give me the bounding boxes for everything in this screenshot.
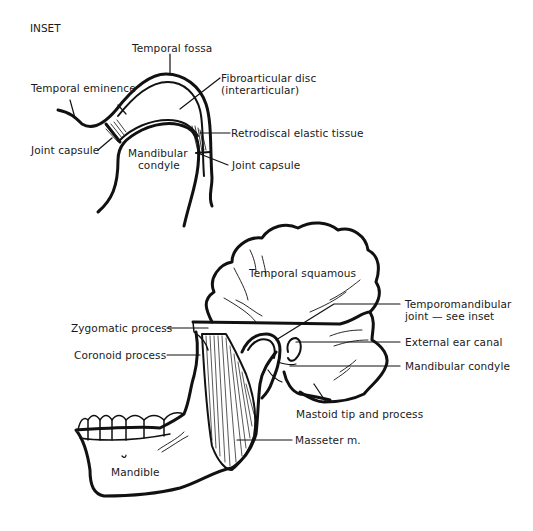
label-zygomatic-process: Zygomatic process [71,322,172,334]
label-joint-capsule-left: Joint capsule [31,144,99,156]
inset-title: INSET [30,22,61,34]
inset-illustration [58,54,230,226]
label-retrodiscal-elastic-tissue: Retrodiscal elastic tissue [231,127,364,139]
label-mastoid-tip-and-process: Mastoid tip and process [296,408,423,420]
label-temporomandibular-joint-line1: Temporomandibular [405,298,512,310]
label-mandible: Mandible [111,466,160,478]
label-mandibular-condyle-inset-line2: condyle [138,159,180,171]
label-fibroarticular-disc-line1: Fibroarticular disc [221,72,316,84]
label-external-ear-canal: External ear canal [405,336,502,348]
label-mandibular-condyle: Mandibular condyle [405,360,510,372]
label-coronoid-process: Coronoid process [74,349,166,361]
label-masseter: Masseter m. [295,434,361,446]
label-temporal-squamous: Temporal squamous [249,267,356,279]
label-temporal-fossa: Temporal fossa [132,42,212,54]
label-fibroarticular-disc-line2: (interarticular) [221,84,299,96]
label-joint-capsule-right: Joint capsule [232,159,300,171]
label-temporal-eminence: Temporal eminence [31,82,136,94]
label-mandibular-condyle-inset-line1: Mandibular [128,147,188,159]
label-temporomandibular-joint-line2: joint — see inset [405,310,494,322]
